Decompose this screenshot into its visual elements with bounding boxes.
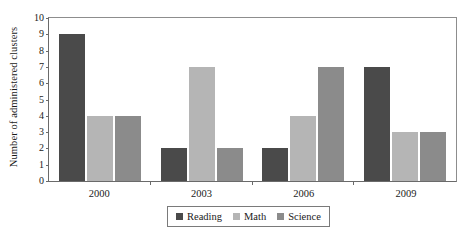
bar-reading-2009[interactable] (364, 67, 390, 181)
y-tick-label: 5 (39, 95, 49, 105)
bar-reading-2006[interactable] (262, 148, 288, 181)
legend-item-science[interactable]: Science (277, 211, 321, 222)
x-minor-tick (353, 181, 354, 185)
legend-label: Math (244, 211, 266, 222)
legend-swatch-reading-icon (176, 213, 183, 220)
chart-legend: ReadingMathScience (167, 206, 330, 227)
x-tick-label-2006: 2006 (253, 186, 355, 202)
bar-group-2006 (253, 18, 355, 181)
legend-swatch-science-icon (277, 213, 284, 220)
bar-science-2000[interactable] (115, 116, 141, 181)
bars-container (49, 18, 456, 181)
bar-chart: Number of administered clusters 01234567… (0, 0, 469, 241)
bar-math-2003[interactable] (189, 67, 215, 181)
bar-science-2009[interactable] (420, 132, 446, 181)
x-tick-label-2003: 2003 (150, 186, 252, 202)
legend-label: Science (288, 211, 321, 222)
y-tick-label: 9 (39, 29, 49, 39)
y-tick-label: 8 (39, 46, 49, 56)
y-tick-label: 7 (39, 62, 49, 72)
x-minor-tick (150, 181, 151, 185)
y-tick-label: 4 (39, 111, 49, 121)
y-axis-title: Number of administered clusters (6, 2, 22, 192)
bar-group-2009 (354, 18, 456, 181)
bar-reading-2000[interactable] (59, 34, 85, 181)
y-tick-label: 10 (34, 13, 49, 23)
bar-math-2000[interactable] (87, 116, 113, 181)
x-axis-tick-labels: 2000200320062009 (48, 186, 457, 202)
bar-science-2006[interactable] (318, 67, 344, 181)
y-tick-label: 0 (39, 176, 49, 186)
bar-math-2006[interactable] (290, 116, 316, 181)
y-tick-label: 6 (39, 78, 49, 88)
legend-swatch-math-icon (233, 213, 240, 220)
legend-item-reading[interactable]: Reading (176, 211, 222, 222)
bar-math-2009[interactable] (392, 132, 418, 181)
x-minor-tick (252, 181, 253, 185)
x-tick-label-2009: 2009 (355, 186, 457, 202)
x-tick-label-2000: 2000 (48, 186, 150, 202)
y-tick-label: 3 (39, 127, 49, 137)
plot-area: 012345678910 (48, 17, 457, 182)
y-tick-label: 1 (39, 160, 49, 170)
legend-label: Reading (187, 211, 222, 222)
bar-science-2003[interactable] (217, 148, 243, 181)
bar-reading-2003[interactable] (161, 148, 187, 181)
bar-group-2000 (49, 18, 151, 181)
y-tick-label: 2 (39, 143, 49, 153)
legend-item-math[interactable]: Math (233, 211, 266, 222)
bar-group-2003 (151, 18, 253, 181)
